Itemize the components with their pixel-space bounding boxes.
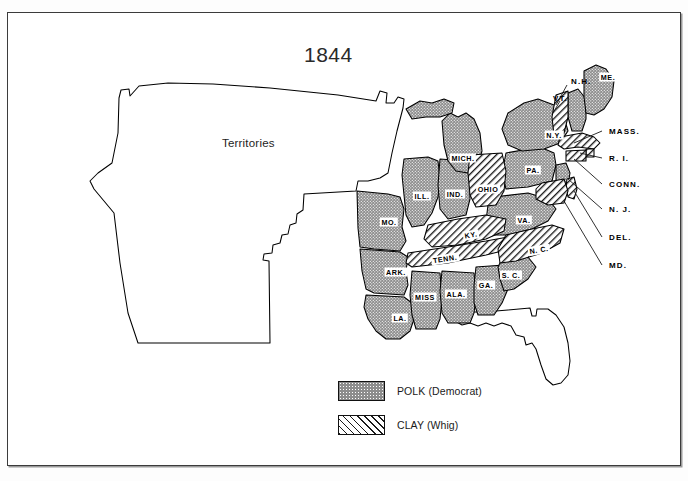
state-label-nj: N. J. <box>609 205 631 214</box>
region-territories <box>90 83 404 343</box>
state-label-ny: N.Y. <box>545 131 564 140</box>
state-label-miss: MISS <box>414 293 437 302</box>
legend-row-polk: POLK (Democrat) <box>338 379 482 402</box>
state-nh <box>568 89 586 131</box>
territories-label: Territories <box>222 137 275 149</box>
state-del <box>566 177 577 199</box>
state-label-la: LA. <box>392 314 408 323</box>
state-label-mo: MO. <box>380 218 398 227</box>
map-year-title: 1844 <box>304 43 353 67</box>
state-conn <box>566 150 586 161</box>
state-label-sc: S. C. <box>500 271 522 280</box>
legend-label-clay: CLAY (Whig) <box>397 419 458 431</box>
legend-row-clay: CLAY (Whig) <box>338 413 482 436</box>
state-label-ill: ILL. <box>413 192 431 201</box>
map-stage: 1844 Territories ME.N.Y.PA.VA.N. C.S. C.… <box>8 13 680 465</box>
state-label-ind: IND. <box>445 190 465 199</box>
legend-swatch-polk <box>338 381 385 401</box>
map-frame: 1844 Territories ME.N.Y.PA.VA.N. C.S. C.… <box>7 12 681 466</box>
state-label-ohio: OHIO <box>476 185 500 194</box>
state-label-ri: R. I. <box>609 154 629 163</box>
state-label-ga: GA. <box>477 281 495 290</box>
state-label-nh: N.H. <box>571 77 591 86</box>
state-label-del: DEL. <box>609 233 632 242</box>
state-label-pa: PA. <box>525 166 541 175</box>
state-label-conn: CONN. <box>609 180 640 189</box>
state-label-mass: MASS. <box>609 127 640 136</box>
state-label-md: MD. <box>609 261 627 270</box>
legend-swatch-clay <box>338 415 385 435</box>
state-label-vt: VT. <box>553 94 568 103</box>
state-label-ark: ARK. <box>385 268 408 277</box>
screenshot-root: 1844 Territories ME.N.Y.PA.VA.N. C.S. C.… <box>0 0 688 481</box>
legend-label-polk: POLK (Democrat) <box>397 385 482 397</box>
state-label-me: ME. <box>599 73 617 82</box>
state-label-mich: MICH. <box>450 154 476 163</box>
map-legend: POLK (Democrat) CLAY (Whig) <box>338 379 482 447</box>
state-label-ala: ALA. <box>445 290 467 299</box>
state-label-va: VA. <box>516 216 532 225</box>
